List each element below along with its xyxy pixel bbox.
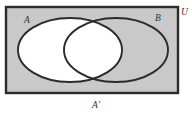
set-b-label: B xyxy=(155,14,161,24)
figure-caption: A' xyxy=(0,101,192,111)
shaded-region-a-complement xyxy=(6,7,178,93)
universal-set-label: U xyxy=(181,8,188,18)
venn-diagram-figure: A B U A' xyxy=(0,0,192,118)
set-a-label: A xyxy=(24,16,30,26)
